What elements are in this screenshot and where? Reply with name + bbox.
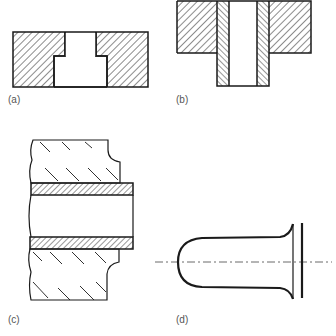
panel-d-drawing [155,223,332,299]
panel-label-b: (b) [176,94,188,105]
panel-c-drawing [29,140,133,300]
figure-canvas [0,0,336,336]
panel-label-d: (d) [176,314,188,325]
panel-label-a: (a) [8,94,20,105]
panel-a-drawing [13,32,148,87]
panel-label-c: (c) [8,314,20,325]
panel-b-drawing [177,1,311,86]
